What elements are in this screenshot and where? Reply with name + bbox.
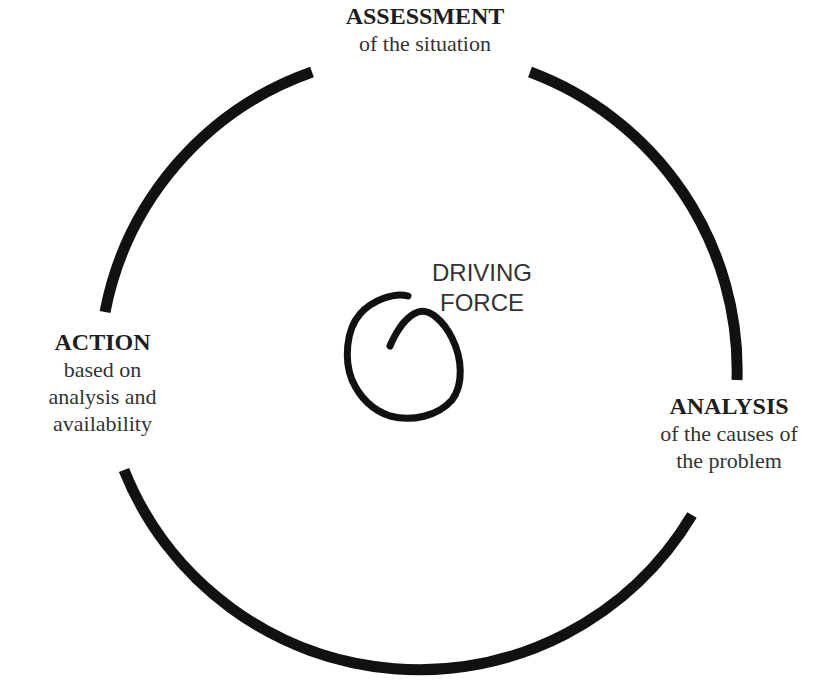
- stage-title: ANALYSIS: [618, 392, 840, 421]
- stage-desc: of the situation: [290, 31, 560, 58]
- stage-desc: of the causes of: [618, 421, 840, 448]
- stage-desc: availability: [0, 411, 205, 438]
- stage-action: ACTION based on analysis and availabilit…: [0, 328, 205, 438]
- stage-assessment: ASSESSMENT of the situation: [290, 2, 560, 58]
- stage-desc: the problem: [618, 448, 840, 475]
- center-label: DRIVING FORCE: [412, 258, 552, 318]
- center-label-line2: FORCE: [412, 288, 552, 318]
- arc-bottom: [124, 470, 692, 670]
- center-label-line1: DRIVING: [412, 258, 552, 288]
- stage-desc: based on: [0, 357, 205, 384]
- stage-desc: analysis and: [0, 384, 205, 411]
- arc-right-top: [530, 72, 737, 380]
- arc-top-left: [105, 72, 312, 312]
- stage-title: ASSESSMENT: [290, 2, 560, 31]
- stage-title: ACTION: [0, 328, 205, 357]
- stage-analysis: ANALYSIS of the causes of the problem: [618, 392, 840, 475]
